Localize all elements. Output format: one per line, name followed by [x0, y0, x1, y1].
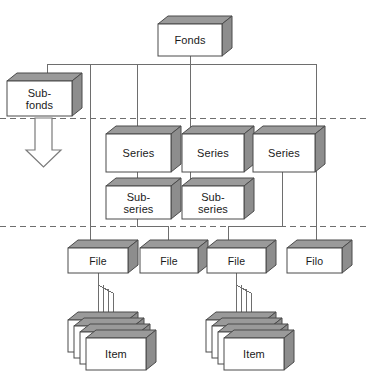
series-3-face: [253, 134, 315, 172]
node-file-1: [68, 240, 138, 273]
series-1-top: [106, 126, 181, 134]
connector-subseries1-to-file2: [137, 219, 168, 240]
node-fonds: [158, 16, 232, 56]
series-3-side: [315, 126, 325, 172]
subseries-2-top: [182, 178, 254, 186]
node-file-3: [207, 240, 276, 273]
diagram-canvas: [0, 0, 367, 384]
node-series-2: [182, 126, 254, 172]
file-4-face: [287, 248, 342, 273]
file-2-top: [140, 240, 208, 248]
connector-file1-fan-top: [98, 285, 113, 293]
subseries-1-top: [106, 178, 181, 186]
node-subseries-1: [106, 178, 181, 219]
fonds-face: [158, 24, 222, 56]
subfonds-down-arrow: [26, 118, 61, 167]
node-file-4: [287, 240, 352, 273]
file-4-top: [287, 240, 352, 248]
item-2-face: [224, 338, 284, 370]
node-item-stack-1: [68, 312, 156, 370]
node-subfonds: [7, 73, 82, 116]
subfonds-face: [7, 81, 72, 116]
node-series-3: [253, 126, 325, 172]
file-1-face: [68, 248, 128, 273]
subseries-1-face: [106, 186, 171, 219]
node-subseries-2: [182, 178, 254, 219]
node-item-stack-2: [206, 312, 294, 370]
subfonds-top: [7, 73, 82, 81]
archival-hierarchy-diagram: Fonds Sub- fonds Series Series Series Su…: [0, 0, 367, 384]
file-1-top: [68, 240, 138, 248]
item-1-top: [86, 330, 156, 338]
item-2-top: [224, 330, 294, 338]
item-1-face: [86, 338, 146, 370]
subseries-2-face: [182, 186, 244, 219]
subfonds-side: [72, 73, 82, 116]
file-3-face: [207, 248, 266, 273]
series-3-top: [253, 126, 325, 134]
series-2-top: [182, 126, 254, 134]
connector-file3-fan-top: [236, 285, 251, 293]
series-1-side: [171, 126, 181, 172]
fonds-top: [158, 16, 232, 24]
series-1-face: [106, 134, 171, 172]
node-series-1: [106, 126, 181, 172]
file-3-top: [207, 240, 276, 248]
node-file-2: [140, 240, 208, 273]
series-2-face: [182, 134, 244, 172]
file-2-face: [140, 248, 198, 273]
